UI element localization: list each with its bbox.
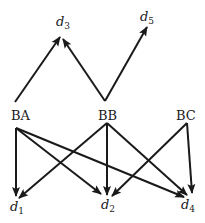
node-d4: d4 [181, 197, 195, 214]
node-BA: BA [11, 108, 31, 123]
node-d1: d1 [10, 199, 24, 216]
edge-BC-d4 [187, 123, 192, 193]
nodes: BA BB BC d3 d5 d1 d2 d4 [10, 9, 196, 216]
edge-BA-d3 [15, 37, 60, 102]
node-d5: d5 [140, 9, 154, 26]
dependency-graph: BA BB BC d3 d5 d1 d2 d4 [0, 0, 205, 223]
edge-BB-d3 [63, 39, 105, 101]
node-BC: BC [176, 108, 196, 123]
edge-BA-d4 [16, 128, 184, 197]
node-d3: d3 [56, 14, 70, 31]
edge-BB-d5 [105, 27, 147, 101]
node-d2: d2 [101, 197, 115, 214]
node-BB: BB [98, 108, 117, 123]
